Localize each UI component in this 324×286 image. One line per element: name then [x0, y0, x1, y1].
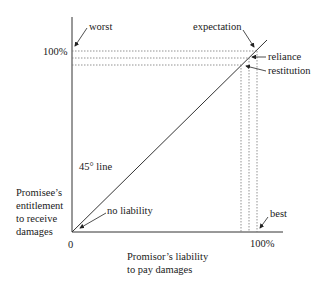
origin-label: 0	[68, 239, 73, 251]
diagonal-label: 45° line	[79, 161, 112, 173]
y-max-label: 100%	[43, 46, 68, 58]
x-axis-label: Promisor’s liability to pay damages	[127, 250, 208, 276]
best-label: best	[270, 208, 287, 220]
expectation-arrow	[243, 30, 254, 47]
no-liability-label: no liability	[107, 205, 153, 217]
worst-arrow	[75, 28, 87, 46]
reliance-label: reliance	[268, 51, 301, 63]
y-axis-label: Promisee’s entitlement to receive damage…	[16, 186, 63, 238]
restitution-label: restitution	[268, 65, 311, 77]
worst-label: worst	[89, 21, 112, 33]
diagram-canvas	[0, 0, 324, 286]
best-arrow	[260, 217, 268, 228]
expectation-label: expectation	[193, 21, 241, 33]
x-max-label: 100%	[250, 238, 275, 250]
45-degree-line	[72, 40, 267, 232]
